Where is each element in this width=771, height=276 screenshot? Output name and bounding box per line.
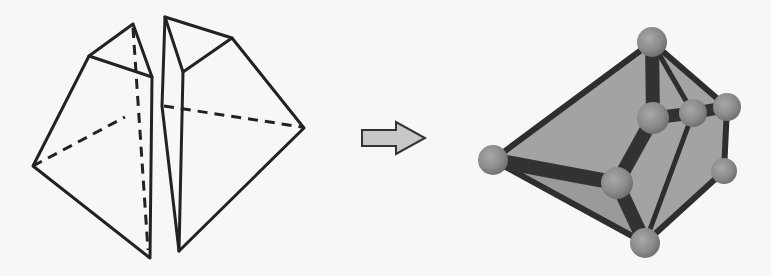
split-polyhedron-drawing: [33, 17, 304, 258]
atom-ball-center-low: [601, 167, 633, 199]
atom-ball-bottom: [630, 228, 660, 258]
atom-ball-right-top: [713, 93, 741, 121]
figure-svg: [0, 0, 771, 276]
left-half-piece: [33, 24, 152, 258]
atom-ball-mid-inner: [679, 99, 707, 127]
atom-ball-right-low: [711, 158, 737, 184]
ball-and-stick-model: [478, 27, 741, 258]
figure-canvas: [0, 0, 771, 276]
right-half-piece: [162, 17, 304, 251]
atom-ball-left: [478, 145, 508, 175]
atom-ball-mid-center: [637, 102, 669, 134]
right-arrow-icon: [362, 122, 425, 154]
atom-ball-top: [637, 27, 667, 57]
